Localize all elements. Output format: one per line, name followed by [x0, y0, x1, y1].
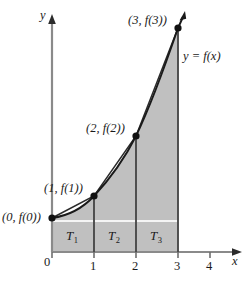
trapezoid-label-3-base: T [150, 228, 157, 243]
trapezoid-label-2-base: T [108, 228, 115, 243]
point-label-0: (0, f(0)) [2, 211, 41, 224]
point-marker-0 [48, 214, 55, 221]
point-label-2: (2, f(2)) [86, 122, 125, 135]
point-marker-2 [132, 132, 139, 139]
curve-equation-label: y = f(x) [183, 50, 221, 63]
x-tick-label-0: 0 [44, 256, 50, 269]
trapezoid-label-3: T3 [150, 229, 161, 242]
trapezoid-label-1-subscript: 1 [74, 235, 78, 245]
x-tick-label-4: 4 [206, 260, 212, 273]
trapezoid-label-1: T1 [66, 229, 77, 242]
point-label-3: (3, f(3)) [128, 14, 167, 27]
point-label-1: (1, f(1)) [44, 182, 83, 195]
plot-svg [0, 0, 249, 290]
x-tick-label-2: 2 [132, 260, 138, 273]
x-tick-label-3: 3 [174, 260, 180, 273]
x-tick-label-1: 1 [90, 260, 96, 273]
y-axis-arrowhead [48, 14, 56, 24]
x-axis-label: x [232, 255, 238, 268]
point-marker-1 [90, 192, 97, 199]
trapezoid-label-1-base: T [66, 228, 73, 243]
shaded-area-under-curve [52, 28, 178, 252]
y-axis-label: y [40, 9, 46, 22]
curve-arrowhead [180, 11, 187, 21]
point-marker-3 [174, 24, 181, 31]
figure-canvas: y x 0 1 2 3 4 (0, f(0)) (1, f(1)) (2, f(… [0, 0, 249, 290]
trapezoid-label-2-subscript: 2 [116, 235, 120, 245]
trapezoid-label-2: T2 [108, 229, 119, 242]
trapezoid-label-3-subscript: 3 [158, 235, 162, 245]
